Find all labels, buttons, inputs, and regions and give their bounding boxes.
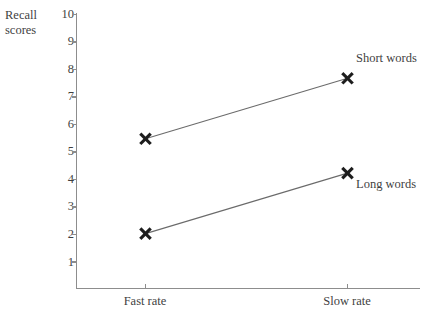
plot-area [0,0,430,317]
series-long-words-segment [146,173,348,234]
data-point-long-words-slow-rate [342,168,352,178]
data-point-short-words-slow-rate [342,73,352,83]
data-point-short-words-fast-rate [140,134,150,144]
data-point-long-words-fast-rate [140,228,150,238]
series-long-words [140,168,352,239]
recall-scores-line-chart: Recall scores 10 9 8 7 6 5 4 3 2 1 Fast … [0,0,430,317]
series-short-words-segment [146,78,348,139]
series-short-words [140,73,352,144]
